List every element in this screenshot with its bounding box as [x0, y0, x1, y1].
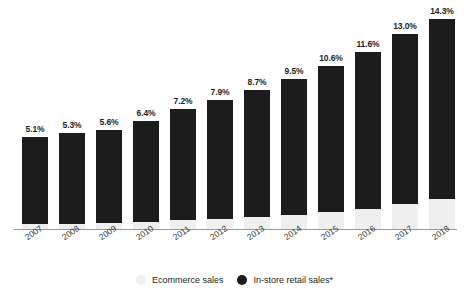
bar-segment-in-store-retail-sales[interactable] — [392, 34, 418, 204]
bar-group[interactable]: 5.3% — [59, 133, 85, 229]
bar-value-label: 5.3% — [63, 120, 82, 130]
bar-group[interactable]: 5.6% — [96, 130, 122, 229]
bar-value-label: 13.0% — [393, 21, 417, 31]
legend-item-in-store-retail-sales[interactable]: In-store retail sales* — [237, 275, 333, 285]
bar-group[interactable]: 7.2% — [170, 109, 196, 229]
bar-group[interactable]: 7.9% — [207, 100, 233, 229]
bar-group[interactable]: 14.3% — [429, 19, 455, 229]
bar-segment-in-store-retail-sales[interactable] — [170, 109, 196, 220]
bar-segment-in-store-retail-sales[interactable] — [96, 130, 122, 224]
bar-group[interactable]: 10.6% — [318, 66, 344, 229]
bar-value-label: 7.2% — [174, 96, 193, 106]
bar-value-label: 5.6% — [100, 117, 119, 127]
bar-value-label: 6.4% — [137, 108, 156, 118]
x-axis-tick-labels: 2007200820092010201120122013201420152016… — [0, 232, 469, 266]
bar-segment-in-store-retail-sales[interactable] — [22, 137, 48, 225]
bar-value-label: 5.1% — [26, 124, 45, 134]
bar-value-label: 8.7% — [248, 77, 267, 87]
legend-light-dot-icon — [136, 275, 146, 285]
bar-value-label: 14.3% — [430, 6, 454, 16]
plot-area: 5.1%5.3%5.6%6.4%7.2%7.9%8.7%9.5%10.6%11.… — [0, 0, 469, 232]
bar-segment-in-store-retail-sales[interactable] — [281, 79, 307, 215]
bar-value-label: 9.5% — [285, 66, 304, 76]
bar-segment-in-store-retail-sales[interactable] — [59, 133, 85, 224]
bar-value-label: 11.6% — [356, 39, 379, 49]
legend-label-ecommerce-sales: Ecommerce sales — [152, 275, 224, 285]
bar-segment-in-store-retail-sales[interactable] — [133, 121, 159, 222]
bar-value-label: 10.6% — [319, 53, 343, 63]
bar-group[interactable]: 5.1% — [22, 137, 48, 229]
bar-group[interactable]: 6.4% — [133, 121, 159, 229]
bar-segment-in-store-retail-sales[interactable] — [244, 90, 270, 217]
bar-segment-in-store-retail-sales[interactable] — [355, 52, 381, 208]
bars-layer: 5.1%5.3%5.6%6.4%7.2%7.9%8.7%9.5%10.6%11.… — [0, 0, 469, 230]
bar-group[interactable]: 11.6% — [355, 52, 381, 229]
bar-group[interactable]: 8.7% — [244, 90, 270, 229]
bar-segment-in-store-retail-sales[interactable] — [429, 19, 455, 199]
bar-segment-in-store-retail-sales[interactable] — [318, 66, 344, 212]
bar-group[interactable]: 13.0% — [392, 34, 418, 229]
legend-label-in-store-retail-sales: In-store retail sales* — [253, 275, 333, 285]
chart-legend: Ecommerce sales In-store retail sales* — [0, 270, 469, 290]
bar-group[interactable]: 9.5% — [281, 79, 307, 229]
legend-item-ecommerce-sales[interactable]: Ecommerce sales — [136, 275, 224, 285]
bar-segment-in-store-retail-sales[interactable] — [207, 100, 233, 219]
bar-value-label: 7.9% — [211, 87, 230, 97]
stacked-bar-chart: 5.1%5.3%5.6%6.4%7.2%7.9%8.7%9.5%10.6%11.… — [0, 0, 469, 296]
legend-dark-dot-icon — [237, 275, 247, 285]
